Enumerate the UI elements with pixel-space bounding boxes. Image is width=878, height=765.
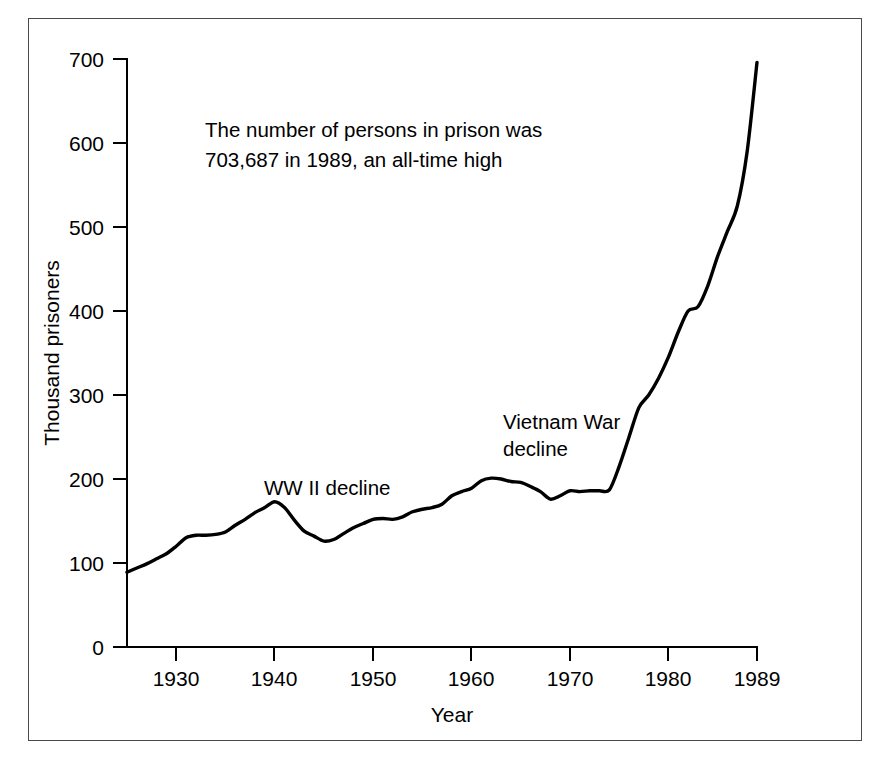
headline-note: The number of persons in prison was 703,… xyxy=(205,118,542,171)
y-axis-tick-labels: 0 100 200 300 400 500 600 700 xyxy=(69,48,104,659)
line-chart: 0 100 200 300 400 500 600 700 1930 1940 … xyxy=(0,0,878,765)
x-tick-label: 1940 xyxy=(251,667,298,690)
headline-note-line-1: The number of persons in prison was xyxy=(205,118,542,141)
vietnam-decline-line-1: Vietnam War xyxy=(503,410,621,433)
vietnam-decline-line-2: decline xyxy=(503,437,568,460)
x-tick-label: 1950 xyxy=(350,667,397,690)
x-tick-label: 1980 xyxy=(645,667,692,690)
x-tick-label: 1930 xyxy=(153,667,200,690)
x-axis-tick-labels: 1930 1940 1950 1960 1970 1980 1989 xyxy=(153,667,781,690)
y-tick-label: 700 xyxy=(69,48,104,71)
vietnam-war-decline-label: Vietnam War decline xyxy=(503,410,621,460)
ww2-decline-label: WW II decline xyxy=(264,476,390,499)
headline-note-line-2: 703,687 in 1989, an all-time high xyxy=(205,148,502,171)
y-tick-label: 100 xyxy=(69,552,104,575)
figure: 0 100 200 300 400 500 600 700 1930 1940 … xyxy=(0,0,878,765)
y-axis-ticks xyxy=(113,59,127,647)
y-tick-label: 200 xyxy=(69,468,104,491)
y-tick-label: 0 xyxy=(92,636,104,659)
x-axis-title: Year xyxy=(431,703,473,726)
x-tick-label: 1970 xyxy=(547,667,594,690)
y-tick-label: 400 xyxy=(69,300,104,323)
x-tick-label: 1989 xyxy=(734,667,781,690)
y-axis-title: Thousand prisoners xyxy=(40,260,63,446)
y-tick-label: 300 xyxy=(69,384,104,407)
x-tick-label: 1960 xyxy=(448,667,495,690)
y-tick-label: 500 xyxy=(69,216,104,239)
x-axis-ticks xyxy=(176,647,757,661)
y-tick-label: 600 xyxy=(69,132,104,155)
